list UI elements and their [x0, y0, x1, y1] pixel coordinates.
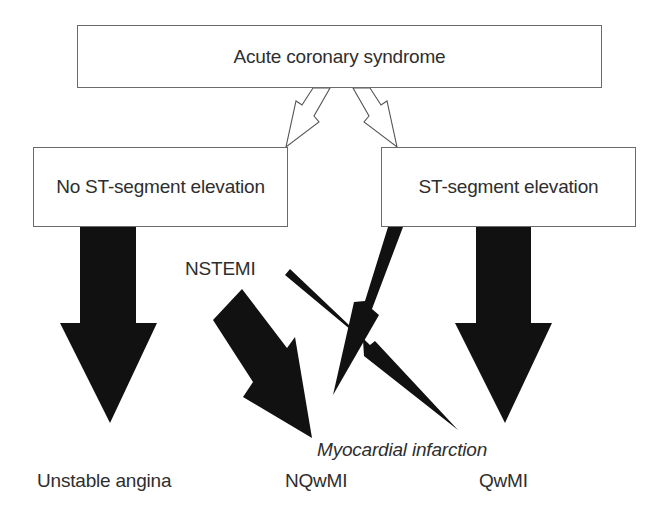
node-label: ST-segment elevation: [419, 176, 599, 198]
node-st-segment-elevation: ST-segment elevation: [381, 147, 636, 227]
acs-classification-diagram: Acute coronary syndrome No ST-segment el…: [0, 0, 665, 508]
node-label: No ST-segment elevation: [56, 176, 265, 198]
label-qwmi: QwMI: [479, 471, 528, 490]
label-myocardial-infarction: Myocardial infarction: [317, 440, 487, 459]
hollow-arrow-to-st-elevation: [353, 88, 397, 147]
hollow-arrow-to-no-st-elevation: [286, 88, 330, 147]
thick-arrow-to-qwmi: [455, 227, 552, 423]
node-label: Acute coronary syndrome: [234, 46, 446, 68]
node-no-st-segment-elevation: No ST-segment elevation: [33, 147, 288, 227]
label-unstable-angina: Unstable angina: [37, 471, 171, 490]
nstemi-arrow-to-nqwmi: [213, 289, 312, 438]
label-nstemi: NSTEMI: [185, 259, 256, 278]
thick-arrow-to-unstable-angina: [60, 227, 157, 423]
label-nqwmi: NQwMI: [285, 471, 347, 490]
node-acute-coronary-syndrome: Acute coronary syndrome: [77, 25, 602, 88]
